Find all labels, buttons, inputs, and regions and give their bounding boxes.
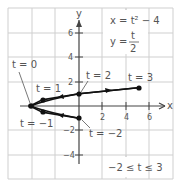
y-tick-label: 4	[68, 53, 73, 62]
domain-label: −2 ≤ t ≤ 3	[108, 162, 163, 173]
point-t-0	[28, 103, 34, 109]
parametric-graph: x y 2 4 6 6 4 2 −2 −4 t = 0 t = 1 t = 2 …	[0, 0, 182, 188]
x-tick-label: 6	[147, 113, 152, 122]
point-t-neg1	[40, 109, 45, 114]
y-tick-label: −4	[63, 151, 75, 160]
point-label-tneg1: t = −1	[20, 118, 53, 129]
y-tick-label: 2	[68, 78, 73, 87]
equation-y-numerator: t	[131, 30, 135, 41]
point-t-neg2	[76, 115, 81, 120]
y-axis-label: y	[76, 8, 82, 19]
grid	[8, 8, 173, 179]
y-tick-label: −2	[63, 126, 75, 135]
y-tick-label: 6	[68, 29, 73, 38]
equation-x: x = t² − 4	[110, 15, 160, 26]
x-tick-label: 2	[100, 113, 105, 122]
point-t-1	[40, 97, 45, 102]
point-label-t3: t = 3	[128, 72, 153, 83]
point-t-3	[136, 85, 141, 90]
equation-y-lhs: y =	[110, 36, 127, 47]
x-axis-label: x	[167, 100, 173, 111]
equation-y-denominator: 2	[130, 43, 136, 54]
arrow-icon	[105, 88, 112, 93]
point-label-t2: t = 2	[86, 70, 111, 81]
point-label-tneg2: t = −2	[89, 128, 122, 139]
x-tick-label: 4	[124, 113, 129, 122]
point-label-t1: t = 1	[36, 83, 61, 94]
point-label-t0: t = 0	[12, 59, 37, 70]
point-t-2	[76, 91, 81, 96]
y-axis-arrow-icon	[76, 20, 82, 27]
